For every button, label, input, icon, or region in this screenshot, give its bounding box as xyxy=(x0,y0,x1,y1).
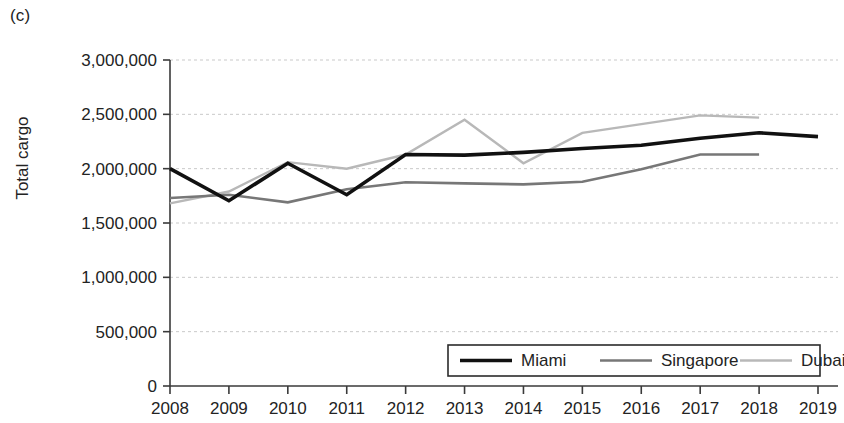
series-line-dubai xyxy=(170,115,759,203)
plot-area: 2008200920102011201220132014201520162017… xyxy=(0,0,844,423)
y-tick-label: 2,000,000 xyxy=(81,160,157,179)
x-tick-label: 2010 xyxy=(269,399,307,418)
x-tick-label: 2015 xyxy=(563,399,601,418)
x-tick-label: 2011 xyxy=(328,399,365,418)
legend-label-miami: Miami xyxy=(521,351,566,370)
legend-label-singapore: Singapore xyxy=(661,351,739,370)
x-tick-label: 2019 xyxy=(799,399,837,418)
x-tick-label: 2018 xyxy=(740,399,778,418)
chart-figure: (c) Total cargo 200820092010201120122013… xyxy=(0,0,844,423)
y-tick-label: 1,500,000 xyxy=(81,214,157,233)
y-tick-label: 2,500,000 xyxy=(81,105,157,124)
x-tick-label: 2017 xyxy=(681,399,719,418)
y-axis-ticks: 0500,0001,000,0001,500,0002,000,0002,500… xyxy=(81,51,170,396)
chart-legend: MiamiSingaporeDubai xyxy=(448,345,844,376)
data-series xyxy=(170,115,818,203)
x-tick-label: 2016 xyxy=(622,399,660,418)
series-line-miami xyxy=(170,133,818,201)
x-tick-label: 2014 xyxy=(505,399,543,418)
y-tick-label: 0 xyxy=(148,377,157,396)
x-tick-label: 2009 xyxy=(210,399,248,418)
x-tick-label: 2008 xyxy=(151,399,189,418)
x-tick-label: 2012 xyxy=(387,399,425,418)
y-tick-label: 3,000,000 xyxy=(81,51,157,70)
y-tick-label: 1,000,000 xyxy=(81,268,157,287)
x-axis-ticks: 2008200920102011201220132014201520162017… xyxy=(151,386,837,418)
gridlines xyxy=(170,60,838,332)
x-tick-label: 2013 xyxy=(446,399,484,418)
legend-label-dubai: Dubai xyxy=(801,351,844,370)
series-line-singapore xyxy=(170,155,759,203)
y-tick-label: 500,000 xyxy=(96,323,157,342)
axis-lines xyxy=(170,60,838,386)
